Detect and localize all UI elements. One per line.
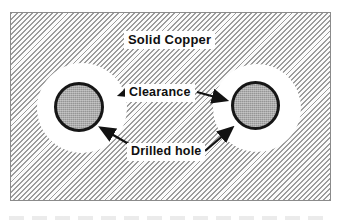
clearance-label: Clearance: [125, 84, 195, 102]
solid-copper-label: Solid Copper: [124, 31, 215, 49]
drilled-hole-left: [54, 82, 104, 132]
figure-copper-clearance-diagram: Solid Copper Clearance Drilled hole: [0, 0, 343, 222]
drilled-hole-label: Drilled hole: [127, 143, 205, 161]
cropped-caption-fragment: [9, 216, 331, 220]
drilled-hole-right: [231, 81, 280, 130]
clearance-ring-left: [37, 63, 127, 153]
clearance-ring-right: [213, 64, 301, 152]
